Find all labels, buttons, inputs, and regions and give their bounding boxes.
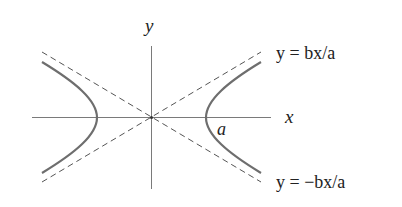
asymptote-positive-label: y = bx/a bbox=[276, 43, 335, 63]
origin-point bbox=[150, 116, 153, 119]
asymptote-negative-label: y = −bx/a bbox=[276, 172, 345, 192]
y-axis-label: y bbox=[143, 15, 154, 36]
x-axis-label: x bbox=[284, 106, 294, 127]
vertex-label: a bbox=[217, 119, 226, 139]
hyperbola-diagram: y x a y = bx/a y = −bx/a bbox=[0, 0, 402, 207]
